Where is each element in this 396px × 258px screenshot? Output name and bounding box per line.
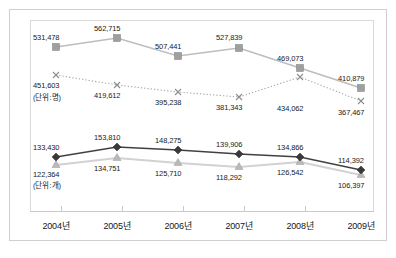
- unit-label-upper: (단위:명): [33, 93, 61, 102]
- data-label: 133,430: [33, 143, 59, 152]
- data-label: 118,292: [216, 173, 242, 182]
- x-axis-label-2005: 2005년: [89, 219, 145, 232]
- data-label: 451,603: [33, 81, 59, 90]
- data-label: 106,397: [338, 181, 364, 190]
- x-axis-label-2009: 2009년: [333, 219, 389, 232]
- data-label: 139,906: [216, 140, 242, 149]
- data-label: 148,275: [155, 136, 181, 145]
- unit-label-lower: (단위:개): [33, 181, 61, 190]
- line-series-square-upper: [56, 38, 361, 88]
- data-label: 134,866: [277, 143, 303, 152]
- data-label: 527,839: [216, 33, 242, 42]
- data-label: 153,810: [94, 133, 120, 142]
- data-label: 381,343: [216, 103, 242, 112]
- data-label: 134,751: [94, 164, 120, 173]
- data-label: 469,073: [277, 54, 303, 63]
- x-axis-label-2004: 2004년: [28, 219, 84, 232]
- data-label: 507,441: [155, 42, 181, 51]
- data-label: 367,467: [338, 108, 364, 117]
- data-label: 419,612: [94, 91, 120, 100]
- data-label: 114,392: [338, 156, 364, 165]
- data-label: 562,715: [94, 24, 120, 33]
- data-label: 122,364: [33, 170, 59, 179]
- x-axis-label-2007: 2007년: [211, 219, 267, 232]
- data-label: 531,478: [33, 33, 59, 42]
- chart-figure: 531,478 562,715 507,441 527,839 469,073 …: [0, 0, 396, 258]
- data-label: 126,542: [277, 168, 303, 177]
- data-label: 410,879: [338, 74, 364, 83]
- data-label: 395,238: [155, 98, 181, 107]
- x-axis-label-2008: 2008년: [272, 219, 328, 232]
- x-axis-label-2006: 2006년: [150, 219, 206, 232]
- data-label: 125,710: [155, 169, 181, 178]
- data-label: 434,062: [277, 104, 303, 113]
- markers-square-upper: [53, 35, 365, 92]
